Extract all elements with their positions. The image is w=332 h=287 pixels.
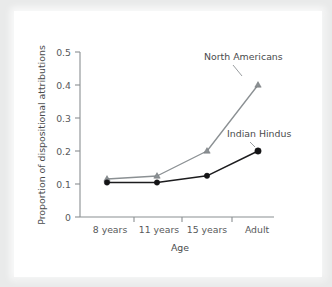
x-axis-tick-labels: 8 years 11 years 15 years Adult xyxy=(93,224,270,235)
figure-card: 0.5 0.4 0.3 0.2 0.1 0 8 years 11 years 1… xyxy=(14,11,322,277)
x-axis-title: Age xyxy=(171,242,189,253)
y-tick-label: 0.5 xyxy=(56,47,71,58)
y-tick-label: 0.4 xyxy=(56,80,71,91)
y-axis-tick-labels: 0.5 0.4 0.3 0.2 0.1 0 xyxy=(56,47,71,223)
data-point-marker xyxy=(255,82,261,88)
data-point-marker xyxy=(104,180,109,185)
data-point-marker xyxy=(204,173,209,178)
y-tick-label: 0 xyxy=(65,212,71,223)
series-indian-hindus xyxy=(104,148,261,185)
y-axis-title: Proportion of dispositional attributions xyxy=(36,45,47,225)
x-tick-label: Adult xyxy=(245,224,270,235)
y-tick-label: 0.3 xyxy=(56,113,71,124)
annotation-indian-hindus: Indian Hindus xyxy=(227,128,291,147)
data-point-marker xyxy=(154,180,159,185)
leader-line xyxy=(233,65,242,76)
annotation-north-americans: North Americans xyxy=(204,51,283,76)
series-label-north-americans: North Americans xyxy=(204,51,283,62)
y-axis-ticks xyxy=(75,52,80,217)
x-tick-label: 11 years xyxy=(139,224,180,235)
line-chart: 0.5 0.4 0.3 0.2 0.1 0 8 years 11 years 1… xyxy=(14,11,322,277)
y-tick-label: 0.1 xyxy=(56,179,71,190)
leader-line xyxy=(250,142,255,147)
x-axis-ticks xyxy=(134,217,232,222)
y-tick-label: 0.2 xyxy=(56,146,71,157)
x-tick-label: 15 years xyxy=(187,224,228,235)
x-tick-label: 8 years xyxy=(93,224,128,235)
data-point-marker xyxy=(255,148,261,154)
series-label-indian-hindus: Indian Hindus xyxy=(227,128,291,139)
